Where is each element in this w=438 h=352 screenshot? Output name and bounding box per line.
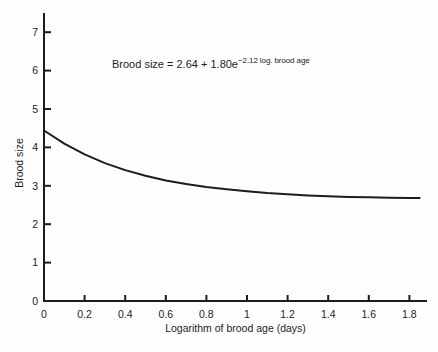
x-tick-label: 0.6 (158, 308, 173, 320)
y-tick-label: 7 (32, 26, 38, 38)
x-tick-label: 0.4 (118, 308, 133, 320)
y-tick-label: 6 (32, 64, 38, 76)
y-tick-label: 4 (32, 141, 38, 153)
x-tick-label: 1.6 (361, 308, 376, 320)
brood-size-chart: 00.20.40.60.811.21.41.61.801234567 Brood… (0, 0, 438, 352)
x-tick-label: 1.2 (280, 308, 295, 320)
x-tick-label: 0 (41, 308, 47, 320)
y-tick-label: 2 (32, 218, 38, 230)
y-axis-label: Brood size (13, 128, 27, 198)
chart-canvas: 00.20.40.60.811.21.41.61.801234567 (0, 0, 438, 352)
x-axis-label: Logarithm of brood age (days) (44, 322, 427, 334)
x-tick-label: 0.8 (199, 308, 214, 320)
x-tick-label: 1 (244, 308, 250, 320)
x-tick-label: 1.4 (321, 308, 336, 320)
y-tick-label: 1 (32, 256, 38, 268)
equation-annotation: Brood size = 2.64 + 1.80e−2.12 log. broo… (112, 56, 310, 70)
equation-superscript: −2.12 log. brood age (238, 56, 310, 65)
x-tick-label: 1.8 (402, 308, 417, 320)
y-tick-label: 0 (32, 295, 38, 307)
equation-base: Brood size = 2.64 + 1.80e (112, 58, 238, 70)
x-tick-label: 0.2 (77, 308, 92, 320)
y-tick-label: 5 (32, 103, 38, 115)
fitted-curve (44, 131, 420, 199)
y-tick-label: 3 (32, 180, 38, 192)
